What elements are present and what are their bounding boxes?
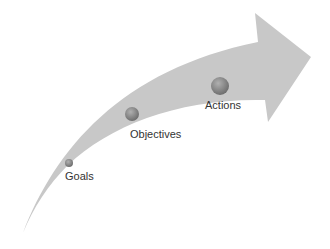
goals-dot — [65, 159, 73, 167]
objectives-label: Objectives — [130, 128, 181, 140]
objectives-dot — [125, 107, 139, 121]
diagram-canvas — [0, 0, 330, 249]
goals-label: Goals — [65, 170, 94, 182]
curved-arrow — [23, 13, 311, 233]
actions-label: Actions — [205, 99, 241, 111]
actions-dot — [211, 77, 229, 95]
